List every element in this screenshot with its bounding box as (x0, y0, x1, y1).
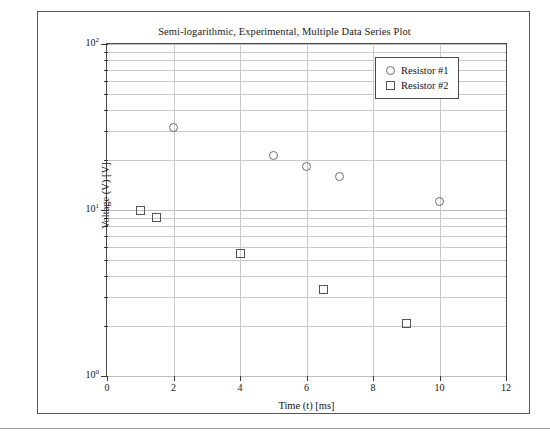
figure-page: Semi-logarithmic, Experimental, Multiple… (0, 0, 550, 446)
x-tick-label: 6 (287, 382, 327, 393)
gridline-vertical (307, 44, 308, 376)
x-tick (240, 376, 241, 381)
y-axis-label: Voltage (V) [V] (100, 126, 111, 266)
y-tick (104, 70, 108, 71)
data-point-square (136, 206, 145, 215)
legend-label: Resistor #2 (401, 80, 449, 91)
x-tick (506, 376, 507, 381)
y-tick (104, 276, 108, 277)
x-tick (440, 376, 441, 381)
chart-title: Semi-logarithmic, Experimental, Multiple… (38, 26, 531, 37)
x-tick-label: 0 (87, 382, 127, 393)
x-tick-label: 8 (353, 382, 393, 393)
y-tick (104, 110, 108, 111)
y-tick-label: 100 (65, 370, 99, 380)
legend-row: Resistor #2 (383, 78, 449, 93)
x-tick (307, 376, 308, 381)
y-tick (104, 326, 108, 327)
x-tick-label: 10 (420, 382, 460, 393)
data-point-circle (169, 123, 178, 132)
x-tick (174, 376, 175, 381)
legend-square-icon (383, 79, 397, 93)
gridline-vertical (240, 44, 241, 376)
gridline-vertical (373, 44, 374, 376)
y-tick (104, 60, 108, 61)
x-tick-label: 2 (154, 382, 194, 393)
figure-frame: Semi-logarithmic, Experimental, Multiple… (37, 11, 530, 414)
y-tick (104, 81, 108, 82)
data-point-circle (302, 162, 311, 171)
data-point-square (402, 319, 411, 328)
y-tick (101, 44, 108, 45)
x-tick-label: 12 (486, 382, 526, 393)
x-axis-label: Time (t) [ms] (107, 400, 506, 411)
legend: Resistor #1Resistor #2 (375, 57, 459, 99)
y-tick (104, 297, 108, 298)
legend-label: Resistor #1 (401, 65, 449, 76)
x-tick (107, 376, 108, 381)
y-tick-label: 102 (65, 38, 99, 48)
data-point-square (236, 249, 245, 258)
y-tick (104, 52, 108, 53)
data-point-circle (269, 151, 278, 160)
y-tick-label: 101 (65, 204, 99, 214)
data-point-square (319, 285, 328, 294)
page-bottom-rule (0, 428, 550, 429)
x-tick-label: 4 (220, 382, 260, 393)
legend-marker (386, 81, 395, 90)
y-tick (104, 94, 108, 95)
x-tick (373, 376, 374, 381)
gridline-vertical (174, 44, 175, 376)
data-point-square (152, 213, 161, 222)
legend-marker (386, 66, 395, 75)
legend-circle-icon (383, 64, 397, 78)
plot-area: 024681012 100101102 Time (t) [ms] Voltag… (106, 43, 507, 377)
data-point-circle (335, 172, 344, 181)
legend-row: Resistor #1 (383, 63, 449, 78)
data-point-circle (435, 197, 444, 206)
